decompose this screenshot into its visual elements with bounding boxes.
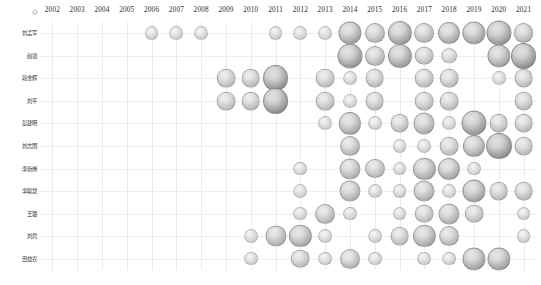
bubble-point xyxy=(415,47,434,66)
bubble-point xyxy=(517,229,531,243)
x-axis-tick-label: 2011 xyxy=(268,6,283,14)
bubble-point xyxy=(393,162,407,176)
x-axis-tick-label: 2004 xyxy=(94,6,109,14)
bubble-point xyxy=(487,247,510,270)
y-axis-tick-label: 刘志国 xyxy=(22,142,37,150)
bubble-point xyxy=(294,162,308,176)
bubble-point xyxy=(340,249,360,269)
bubble-point xyxy=(440,137,459,156)
y-axis-tick-label: 彭建明 xyxy=(22,119,37,127)
x-axis-tick-label: 2012 xyxy=(293,6,308,14)
y-axis-tick-label: 赵锦 xyxy=(27,52,37,60)
bubble-point xyxy=(514,114,533,133)
bubble-point xyxy=(514,92,533,111)
bubble-point xyxy=(365,159,385,179)
bubble-point xyxy=(294,184,308,198)
bubble-point xyxy=(244,229,258,243)
bubble-point xyxy=(418,139,432,153)
bubble-point xyxy=(514,137,533,156)
x-axis-tick-label: 2018 xyxy=(442,6,457,14)
bubble-point xyxy=(318,26,332,40)
gridline-horizontal xyxy=(40,146,536,147)
bubble-point xyxy=(338,22,361,45)
bubble-point xyxy=(492,71,506,85)
bubble-point xyxy=(368,252,382,266)
bubble-point xyxy=(442,117,456,131)
bubble-point xyxy=(438,22,460,44)
bubble-point xyxy=(263,88,289,114)
bubble-point xyxy=(388,21,412,45)
bubble-point xyxy=(217,92,236,111)
bubble-point xyxy=(489,182,508,201)
gridline-horizontal xyxy=(40,236,536,237)
bubble-point xyxy=(465,204,484,223)
bubble-point xyxy=(390,114,409,133)
bubble-point xyxy=(291,249,310,268)
bubble-point xyxy=(365,69,384,88)
y-axis-tick-label: 田益农 xyxy=(22,255,37,263)
bubble-point xyxy=(440,69,459,88)
bubble-point xyxy=(343,94,357,108)
bubble-point xyxy=(414,113,435,134)
y-axis-tick-label: 刘孟军 xyxy=(22,29,37,37)
bubble-point xyxy=(368,229,382,243)
bubble-point xyxy=(486,21,511,46)
bubble-point xyxy=(438,157,460,179)
gridline-horizontal xyxy=(40,56,536,57)
bubble-point xyxy=(340,136,360,156)
bubble-point xyxy=(414,181,435,202)
bubble-point xyxy=(413,225,435,247)
x-axis-tick-label: 2020 xyxy=(491,6,506,14)
bubble-point xyxy=(170,26,184,40)
bubble-point xyxy=(318,117,332,131)
bubble-point xyxy=(145,26,159,40)
x-axis-tick-label: 2010 xyxy=(243,6,258,14)
y-axis-tick-label: 李新岗 xyxy=(22,165,37,173)
bubble-point xyxy=(269,26,283,40)
bubble-chart: ◇ 20022003200420052006200720082009201020… xyxy=(0,0,541,285)
bubble-point xyxy=(217,69,236,88)
bubble-point xyxy=(315,204,335,224)
y-axis-tick-label: 李聪慧 xyxy=(22,187,37,195)
bubble-point xyxy=(265,226,286,247)
bubble-point xyxy=(442,184,456,198)
bubble-point xyxy=(316,92,335,111)
bubble-point xyxy=(388,44,412,68)
bubble-point xyxy=(514,23,534,43)
x-axis-tick-label: 2019 xyxy=(466,6,481,14)
bubble-point xyxy=(339,112,361,134)
bubble-point xyxy=(414,23,434,43)
y-axis-tick-label: 刘宾 xyxy=(27,232,37,240)
y-axis-tick-label: 王璐 xyxy=(27,210,37,218)
bubble-point xyxy=(489,114,508,133)
bubble-point xyxy=(365,23,385,43)
x-axis-tick-label: 2013 xyxy=(318,6,333,14)
bubble-point xyxy=(343,207,357,221)
bubble-point xyxy=(316,69,335,88)
x-axis-tick-label: 2008 xyxy=(194,6,209,14)
bubble-point xyxy=(318,229,332,243)
bubble-point xyxy=(461,111,486,136)
x-axis-tick-label: 2015 xyxy=(367,6,382,14)
bubble-point xyxy=(440,92,459,111)
bubble-point xyxy=(442,252,456,266)
bubble-point xyxy=(393,207,407,221)
x-axis-tick-label: 2002 xyxy=(45,6,60,14)
plot-area xyxy=(40,22,536,270)
y-axis-tick-label: 刘平 xyxy=(27,97,37,105)
y-axis-tick-label: 段金辉 xyxy=(22,74,37,82)
bubble-point xyxy=(462,22,485,45)
bubble-point xyxy=(368,184,382,198)
x-axis-tick-label: 2021 xyxy=(516,6,531,14)
bubble-point xyxy=(462,247,485,270)
bubble-point xyxy=(415,204,434,223)
x-axis-tick-label: 2016 xyxy=(392,6,407,14)
bubble-point xyxy=(517,207,531,221)
bubble-point xyxy=(194,26,208,40)
bubble-point xyxy=(514,69,533,88)
bubble-point xyxy=(343,71,357,85)
bubble-point xyxy=(365,92,384,111)
bubble-point xyxy=(487,44,510,67)
y-axis-labels: 刘孟军赵锦段金辉刘平彭建明刘志国李新岗李聪慧王璐刘宾田益农 xyxy=(0,22,40,270)
x-axis-tick-label: 2006 xyxy=(144,6,159,14)
